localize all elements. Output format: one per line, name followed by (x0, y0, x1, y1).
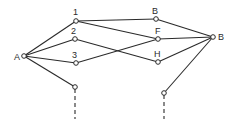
labels-layer: A123BFHB (14, 6, 224, 62)
edge-n1-F (76, 21, 158, 39)
node-label-n1: 1 (73, 7, 78, 17)
edge-H-Bright (158, 37, 213, 62)
node-n2 (73, 37, 78, 42)
dashed-edges-layer (75, 89, 164, 119)
node-label-n3: 3 (72, 50, 77, 60)
network-diagram: A123BFHB (0, 0, 230, 122)
node-n1 (74, 19, 79, 24)
node-label-H: H (154, 49, 161, 59)
node-Bright (211, 35, 216, 40)
node-label-A: A (14, 52, 20, 62)
node-nL (73, 85, 78, 90)
node-n3 (74, 61, 79, 66)
node-label-Bright: B (218, 32, 224, 42)
node-A (22, 54, 27, 59)
edge-A-nL (24, 56, 75, 87)
node-Btop (154, 17, 159, 22)
node-F (156, 37, 161, 42)
edge-A-n3 (24, 56, 76, 63)
node-label-Btop: B (152, 6, 158, 16)
node-nR (162, 91, 167, 96)
edge-nR-Bright (164, 37, 213, 93)
node-label-F: F (155, 26, 161, 36)
edge-F-Bright (158, 37, 213, 39)
node-label-n2: 2 (71, 26, 76, 36)
edge-A-n2 (24, 39, 75, 56)
edges-layer (24, 19, 213, 93)
node-H (156, 60, 161, 65)
edge-Btop-Bright (156, 19, 213, 37)
edge-A-n1 (24, 21, 76, 56)
edge-n1-Btop (76, 19, 156, 21)
